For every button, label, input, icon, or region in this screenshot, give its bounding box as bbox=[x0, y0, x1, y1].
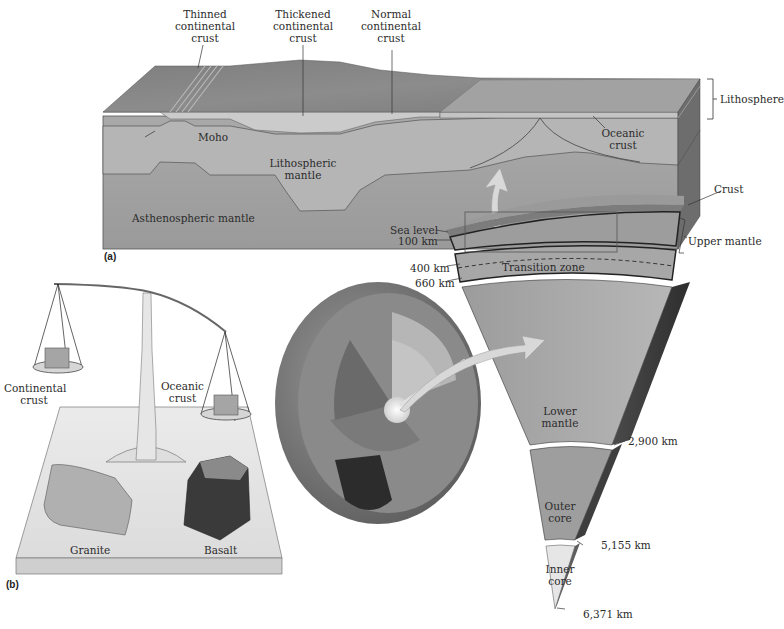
panel-a-tag: (a) bbox=[104, 251, 116, 262]
label-lithospheric-mantle: Lithospheric mantle bbox=[268, 157, 338, 181]
label-lithosphere: Lithosphere bbox=[720, 93, 784, 105]
earth-wedge bbox=[446, 194, 690, 609]
label-lower-mantle: Lower mantle bbox=[535, 405, 585, 429]
label-basalt: Basalt bbox=[204, 544, 237, 556]
label-400-km: 400 km bbox=[410, 262, 450, 274]
label-continental-crust: Continental crust bbox=[4, 382, 64, 406]
label-5155-km: 5,155 km bbox=[601, 539, 651, 551]
label-660-km: 660 km bbox=[415, 277, 455, 289]
label-asthenospheric-mantle: Asthenospheric mantle bbox=[132, 212, 255, 224]
label-moho: Moho bbox=[198, 131, 228, 143]
label-crust: Crust bbox=[714, 183, 743, 195]
label-inner-core: Inner core bbox=[545, 563, 575, 587]
label-2900-km: 2,900 km bbox=[628, 435, 678, 447]
panel-b-tag: (b) bbox=[6, 579, 19, 590]
label-outer-core: Outer core bbox=[540, 500, 580, 524]
label-normal-continental-crust: Normal continental crust bbox=[356, 8, 426, 44]
label-thickened-continental-crust: Thickened continental crust bbox=[268, 8, 338, 44]
label-granite: Granite bbox=[70, 544, 110, 556]
label-upper-mantle: Upper mantle bbox=[688, 235, 762, 247]
balance-scale bbox=[16, 284, 282, 574]
label-100-km: 100 km bbox=[398, 235, 438, 247]
lithosphere-bracket bbox=[707, 79, 717, 119]
label-thinned-continental-crust: Thinned continental crust bbox=[170, 8, 240, 44]
label-transition-zone: Transition zone bbox=[502, 261, 585, 273]
label-oceanic-crust-b: Oceanic crust bbox=[160, 380, 205, 404]
label-6371-km: 6,371 km bbox=[583, 608, 633, 620]
label-oceanic-crust: Oceanic crust bbox=[598, 127, 648, 151]
earth-globe bbox=[275, 282, 481, 524]
